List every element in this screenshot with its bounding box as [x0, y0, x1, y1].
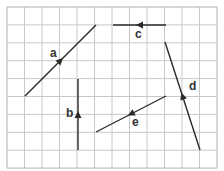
vector-label-a: a	[50, 46, 57, 60]
vector-c: c	[113, 22, 166, 42]
vector-label-e: e	[132, 115, 139, 129]
vector-label-d: d	[189, 79, 196, 93]
vector-label-c: c	[135, 27, 142, 41]
vector-label-b: b	[66, 106, 73, 120]
vector-grid-diagram: abcde	[0, 0, 224, 171]
grid	[7, 7, 217, 168]
